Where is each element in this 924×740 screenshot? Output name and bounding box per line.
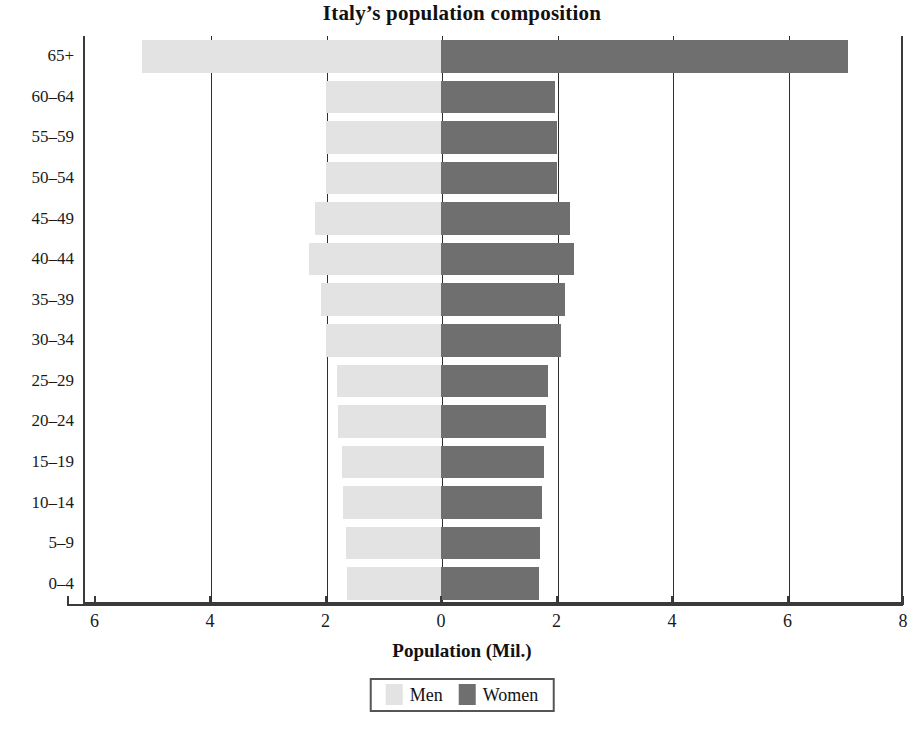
legend-item-men: Men (386, 684, 443, 705)
bar-men (326, 121, 441, 153)
bar-women (441, 81, 555, 113)
y-axis-tick-label: 45–49 (0, 210, 74, 227)
x-axis-tick (671, 596, 673, 605)
y-axis-tick-label: 55–59 (0, 128, 74, 145)
y-axis-tick-label: 40–44 (0, 250, 74, 267)
legend-item-women: Women (459, 684, 539, 705)
x-axis-tick (94, 596, 96, 605)
x-axis-tick-label: 6 (75, 610, 115, 632)
bar-women (441, 446, 544, 478)
x-axis-tick (440, 596, 442, 605)
bar-row (83, 446, 903, 478)
x-axis-tick (787, 596, 789, 605)
bar-row (83, 121, 903, 153)
bar-women (441, 567, 539, 599)
x-axis-tick-label: 6 (768, 610, 808, 632)
bar-row (83, 202, 903, 234)
bar-row (83, 567, 903, 599)
bar-men (337, 365, 441, 397)
x-axis-tick-label: 4 (190, 610, 230, 632)
page-title: Italy’s population composition (0, 0, 924, 26)
bar-men (321, 283, 441, 315)
women-swatch-icon (459, 684, 476, 705)
bar-men (326, 324, 441, 356)
x-axis-title: Population (Mil.) (0, 639, 924, 662)
y-axis-tick-label: 30–34 (0, 331, 74, 348)
legend: Men Women (370, 678, 555, 712)
bar-women (441, 40, 848, 72)
bar-row (83, 405, 903, 437)
bar-women (441, 243, 574, 275)
bar-men (309, 243, 441, 275)
bar-women (441, 405, 546, 437)
legend-label-men: Men (410, 685, 443, 705)
bar-women (441, 486, 542, 518)
bar-men (315, 202, 441, 234)
x-axis-tick (902, 596, 904, 605)
x-axis-tick (556, 596, 558, 605)
bar-men (338, 405, 441, 437)
y-axis-tick-label: 25–29 (0, 372, 74, 389)
bars-layer (83, 36, 903, 604)
y-axis-tick-label: 15–19 (0, 453, 74, 470)
bar-row (83, 243, 903, 275)
bar-row (83, 162, 903, 194)
bar-men (343, 486, 441, 518)
bar-row (83, 40, 903, 72)
y-axis-tick-label: 60–64 (0, 88, 74, 105)
bar-row (83, 283, 903, 315)
legend-label-women: Women (483, 685, 539, 705)
y-axis-tick-label: 5–9 (0, 534, 74, 551)
bar-women (441, 527, 540, 559)
y-axis-tick-label: 65+ (0, 47, 74, 64)
y-axis-tick-label: 10–14 (0, 494, 74, 511)
bar-row (83, 365, 903, 397)
bar-men (347, 567, 441, 599)
bar-men (142, 40, 441, 72)
bar-men (342, 446, 441, 478)
bar-women (441, 283, 565, 315)
x-axis-tick-label: 8 (883, 610, 923, 632)
men-swatch-icon (386, 684, 403, 705)
bar-women (441, 365, 548, 397)
bar-men (346, 527, 441, 559)
bar-men (326, 81, 441, 113)
y-axis-tick-label: 35–39 (0, 291, 74, 308)
bar-women (441, 162, 556, 194)
x-axis-tick-label: 4 (652, 610, 692, 632)
bar-row (83, 81, 903, 113)
bar-women (441, 202, 570, 234)
figure-caption (0, 727, 924, 740)
bar-row (83, 527, 903, 559)
y-axis-tick-label: 50–54 (0, 169, 74, 186)
x-axis-tick-label: 0 (421, 610, 461, 632)
x-axis-tick-label: 2 (306, 610, 346, 632)
bar-row (83, 486, 903, 518)
y-axis-label-group: 65+60–6455–5950–5445–4940–4435–3930–3425… (0, 36, 74, 604)
x-axis-tick-label: 2 (537, 610, 577, 632)
bar-women (441, 324, 561, 356)
bar-women (441, 121, 556, 153)
bar-row (83, 324, 903, 356)
bar-men (326, 162, 441, 194)
x-axis-start-cap (67, 596, 69, 605)
y-axis-tick-label: 20–24 (0, 412, 74, 429)
x-axis-line (67, 604, 903, 606)
y-axis-tick-label: 0–4 (0, 575, 74, 592)
x-axis-tick (325, 596, 327, 605)
x-axis-tick (209, 596, 211, 605)
